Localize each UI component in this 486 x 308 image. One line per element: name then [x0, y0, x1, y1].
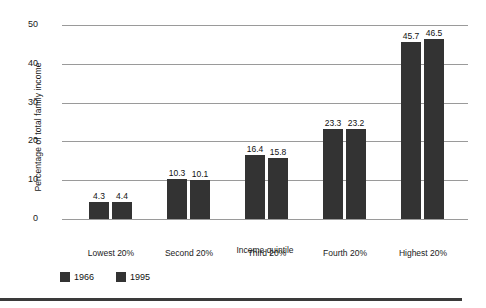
bottom-rule: [0, 298, 462, 301]
legend-label-1966: 1966: [74, 272, 94, 282]
ytick-label-20: 20: [0, 135, 38, 145]
ytick-label-10: 10: [0, 174, 38, 184]
x-axis-title: Income quintile: [62, 245, 468, 255]
bar-second-1966: [167, 179, 187, 219]
bar-chart: Percentage of total family income 50 40 …: [0, 0, 486, 308]
bar-fourth-1966: [323, 129, 343, 219]
ytick-label-40: 40: [0, 58, 38, 68]
gridline-50: [62, 25, 468, 26]
plot-area: 50 40 30 20 10 0 4.3 4.4 10.3 10.1 16.4 …: [62, 25, 468, 219]
legend-label-1995: 1995: [130, 272, 150, 282]
bar-value-fourth-1995: 23.2: [339, 118, 373, 128]
ytick-label-30: 30: [0, 97, 38, 107]
bar-fourth-1995: [346, 129, 366, 219]
legend: 1966 1995: [60, 272, 150, 282]
bar-value-third-1995: 15.8: [261, 147, 295, 157]
legend-swatch-icon-1966: [60, 272, 70, 282]
bar-highest-1995: [424, 39, 444, 219]
bar-second-1995: [190, 180, 210, 219]
bar-value-second-1995: 10.1: [183, 169, 217, 179]
bar-value-highest-1995: 46.5: [417, 28, 451, 38]
bar-third-1995: [268, 158, 288, 219]
legend-item-1995: 1995: [116, 272, 150, 282]
legend-item-1966: 1966: [60, 272, 94, 282]
bar-value-lowest-1995: 4.4: [105, 191, 139, 201]
ytick-label-50: 50: [0, 19, 38, 29]
bar-lowest-1995: [112, 202, 132, 219]
bar-lowest-1966: [89, 202, 109, 219]
bar-highest-1966: [401, 42, 421, 219]
ytick-label-0: 0: [0, 213, 38, 223]
gridline-0: [62, 219, 468, 220]
bar-third-1966: [245, 155, 265, 219]
legend-swatch-icon-1995: [116, 272, 126, 282]
